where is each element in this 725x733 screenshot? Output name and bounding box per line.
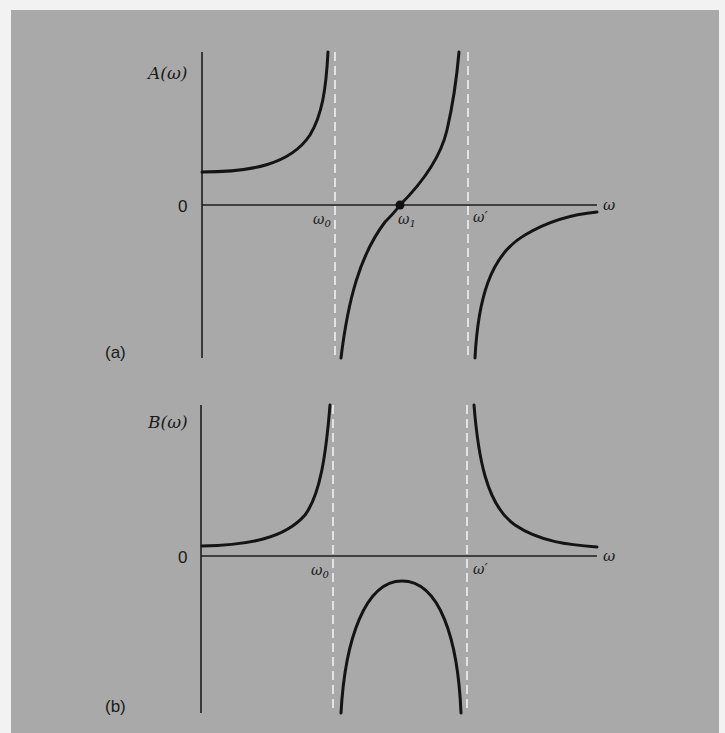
curve-branch-3 [475,212,597,358]
curve-branch-2 [341,581,461,713]
omega0-label: ω0 [311,562,329,580]
x-axis-label: ω [603,547,615,565]
panel-b-label: (b) [105,697,126,716]
curve-branch-1 [202,52,328,172]
figure: A(ω) 0 ω ω0 ω1 ω′ (a) B(ω) 0 ω ω0 ω′ (b) [0,0,725,733]
x-axis-label: ω [603,196,615,214]
curve-branch-3 [474,405,597,547]
omega-prime-label: ω′ [473,561,488,577]
omega1-label: ω1 [398,211,416,229]
panel-b: B(ω) 0 ω ω0 ω′ (b) [105,405,615,716]
panel-a: A(ω) 0 ω ω0 ω1 ω′ (a) [105,52,615,362]
y-axis-label: A(ω) [146,63,187,83]
zero-label: 0 [178,548,187,567]
y-axis-label: B(ω) [147,412,188,432]
zero-label: 0 [178,197,187,216]
panel-a-label: (a) [105,343,126,362]
omega0-label: ω0 [313,211,331,229]
zero-crossing-dot [396,201,405,210]
omega-prime-label: ω′ [473,209,488,225]
curve-branch-1 [202,405,330,546]
